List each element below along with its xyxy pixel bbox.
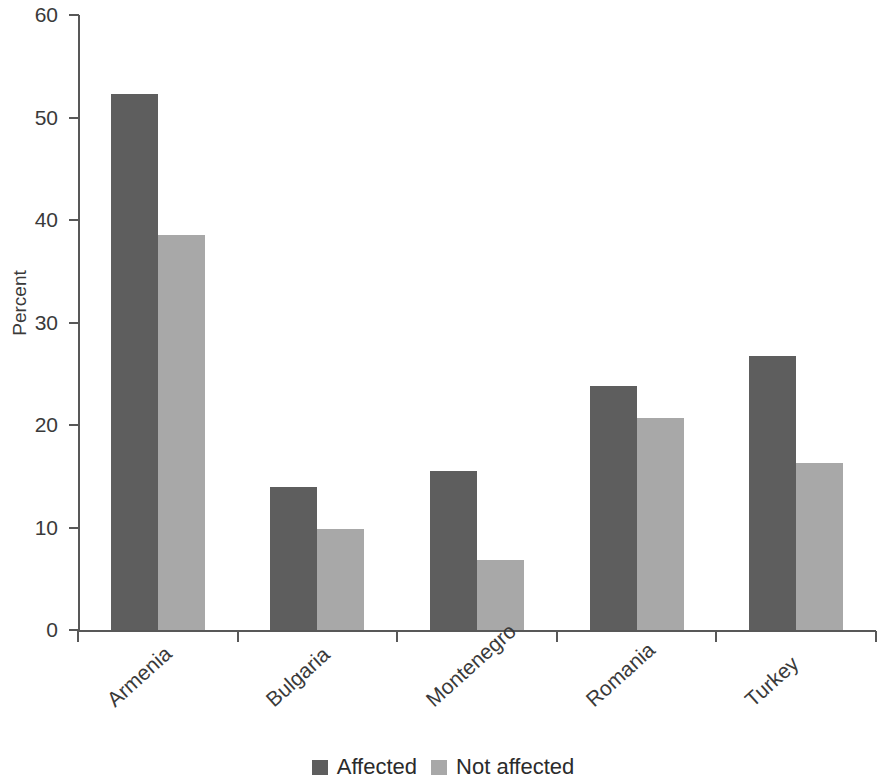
bar-romania-not-affected: [637, 418, 684, 630]
x-tick-mark: [237, 631, 239, 642]
x-category-label-bulgaria: Bulgaria: [262, 643, 333, 710]
legend-item-not-affected: Not affected: [431, 756, 574, 778]
x-tick-mark: [396, 631, 398, 642]
y-tick-mark: [69, 117, 79, 119]
x-tick-mark: [715, 631, 717, 642]
bar-armenia-affected: [111, 94, 158, 630]
bar-montenegro-affected: [430, 471, 477, 630]
y-tick-label: 0: [16, 619, 58, 640]
legend-item-affected: Affected: [312, 756, 417, 778]
x-axis-line: [78, 630, 876, 632]
x-category-label-montenegro: Montenegro: [422, 620, 519, 711]
y-axis-title: Percent: [9, 243, 31, 363]
y-tick-label: 60: [16, 4, 58, 25]
bar-turkey-not-affected: [796, 463, 843, 630]
y-tick-label: 10: [16, 517, 58, 538]
x-tick-mark: [875, 631, 877, 642]
x-tick-mark: [77, 631, 79, 642]
bar-armenia-not-affected: [158, 235, 205, 630]
x-category-label-armenia: Armenia: [103, 642, 175, 710]
x-category-label-turkey: Turkey: [741, 652, 802, 710]
bar-bulgaria-affected: [270, 487, 317, 631]
legend-swatch-affected-icon: [312, 760, 328, 775]
y-tick-label: 20: [16, 414, 58, 435]
bar-turkey-affected: [749, 356, 796, 630]
y-tick-mark: [69, 527, 79, 529]
y-tick-label: 40: [16, 209, 58, 230]
y-tick-mark: [69, 424, 79, 426]
bar-bulgaria-not-affected: [317, 529, 364, 630]
legend-label-not-affected: Not affected: [456, 756, 574, 778]
chart-legend: Affected Not affected: [0, 756, 886, 778]
legend-label-affected: Affected: [337, 756, 417, 778]
bar-romania-affected: [590, 386, 637, 630]
bar-montenegro-not-affected: [477, 560, 524, 630]
x-tick-mark: [556, 631, 558, 642]
y-tick-mark: [69, 219, 79, 221]
legend-swatch-not-affected-icon: [431, 760, 447, 775]
y-tick-mark: [69, 322, 79, 324]
x-category-label-romania: Romania: [582, 638, 659, 710]
y-tick-label: 50: [16, 107, 58, 128]
y-tick-label: 30: [16, 312, 58, 333]
bar-chart: Percent 0102030405060 ArmeniaBulgariaMon…: [0, 0, 886, 782]
y-tick-mark: [69, 14, 79, 16]
